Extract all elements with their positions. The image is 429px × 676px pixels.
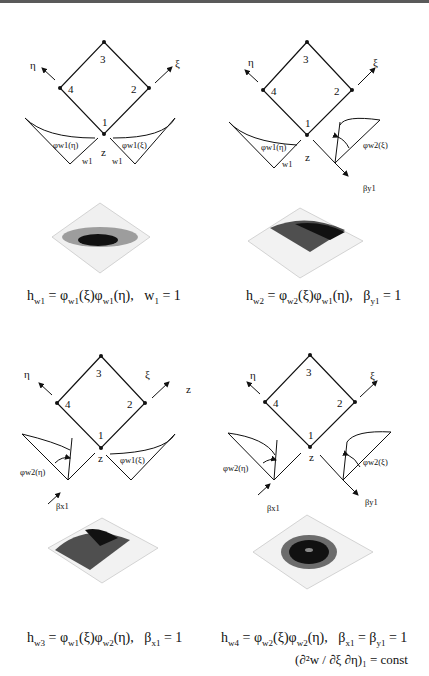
node-label-4: 4: [271, 86, 277, 97]
left-curve-label: φw2(η): [20, 468, 45, 477]
axis-eta-label: η: [30, 60, 36, 71]
right-dof-label: w1: [112, 157, 122, 166]
caption-hw3: hw3 = φw1(ξ)φw2(η), βx1 = 1: [27, 630, 182, 648]
axis-xi-label: ξ: [373, 57, 378, 68]
axis-eta-label: η: [248, 57, 254, 68]
surface-plot: [253, 515, 373, 589]
node-label-4: 4: [68, 84, 74, 95]
right-curve-label: φw2(ξ): [363, 458, 388, 467]
axis-xi-label: ξ: [370, 370, 375, 381]
left-curve-label: φw2(η): [223, 464, 248, 473]
caption-hw2: hw2 = φw2(ξ)φw1(η), βy1 = 1: [246, 288, 401, 306]
axis-eta-label: η: [250, 370, 256, 381]
node-label-2: 2: [131, 84, 137, 95]
axis-z-label: z: [305, 152, 310, 163]
node-label-3: 3: [100, 54, 106, 65]
caption-hw1: hw1 = φw1(ξ)φw1(η), w1 = 1: [27, 288, 181, 306]
axis-z-label: z: [101, 147, 106, 158]
node-label-1: 1: [98, 430, 104, 441]
node-label-3: 3: [96, 368, 102, 379]
left-dof-label: w1: [282, 160, 292, 169]
right-curve-label: φw1(ξ): [120, 456, 145, 465]
axis-xi-label: ξ: [145, 369, 150, 380]
right-curve-label: φw1(ξ): [122, 141, 147, 150]
node-label-1: 1: [102, 117, 108, 128]
footnote: (∂²w / ∂ξ ∂η)₁ = const: [295, 652, 408, 668]
axis-z-outer-label: z: [186, 384, 191, 395]
node-label-1: 1: [308, 430, 314, 441]
element-diagram: [215, 330, 429, 676]
node-label-2: 2: [334, 86, 340, 97]
caption-hw4: hw4 = φw2(ξ)φw2(η), βx1 = βy1 = 1: [221, 630, 407, 648]
axis-eta-label: η: [24, 369, 30, 380]
surface-plot: [52, 203, 150, 273]
left-curve-label: φw1(η): [261, 143, 286, 152]
element-diagram: [215, 0, 429, 320]
right-dof-label: βy1: [363, 184, 376, 193]
panel-hw1: 3 4 2 1 η ξ z φw1(η) φw1(ξ) w1 w1 hw1 = …: [0, 0, 215, 320]
axis-z-label: z: [309, 452, 314, 463]
panel-hw3: 3 4 2 1 η ξ z z φw2(η) φw1(ξ) βx1 hw3 = …: [0, 330, 215, 676]
surface-plot: [48, 518, 158, 583]
node-label-3: 3: [306, 367, 312, 378]
right-curve-label: φw2(ξ): [363, 141, 388, 150]
node-label-3: 3: [303, 54, 309, 65]
left-dof-label: βx1: [56, 502, 69, 511]
node-label-2: 2: [337, 398, 343, 409]
axis-xi-label: ξ: [175, 58, 180, 69]
node-label-4: 4: [65, 399, 71, 410]
node-label-2: 2: [127, 399, 133, 410]
left-dof-label: βx1: [267, 504, 280, 513]
axis-z-label: z: [98, 453, 103, 464]
element-diagram: [0, 330, 215, 676]
panel-hw2: 3 4 2 1 η ξ z φw1(η) φw2(ξ) w1 βy1 hw2 =…: [215, 0, 429, 320]
surface-plot: [248, 208, 363, 278]
left-dof-label: w1: [82, 157, 92, 166]
right-dof-label: βy1: [365, 498, 378, 507]
node-label-4: 4: [273, 398, 279, 409]
node-label-1: 1: [305, 118, 311, 129]
element-diagram: [0, 0, 215, 320]
panel-hw4: 3 4 2 1 η ξ z φw2(η) φw2(ξ) βx1 βy1 hw4 …: [215, 330, 429, 676]
left-curve-label: φw1(η): [53, 141, 78, 150]
